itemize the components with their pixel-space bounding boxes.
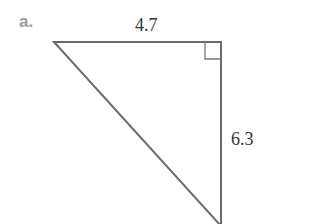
right-angle-marker (205, 42, 221, 59)
side-label-right: 6.3 (231, 129, 254, 150)
side-label-top: 4.7 (135, 15, 158, 36)
triangle-shape (54, 42, 221, 224)
